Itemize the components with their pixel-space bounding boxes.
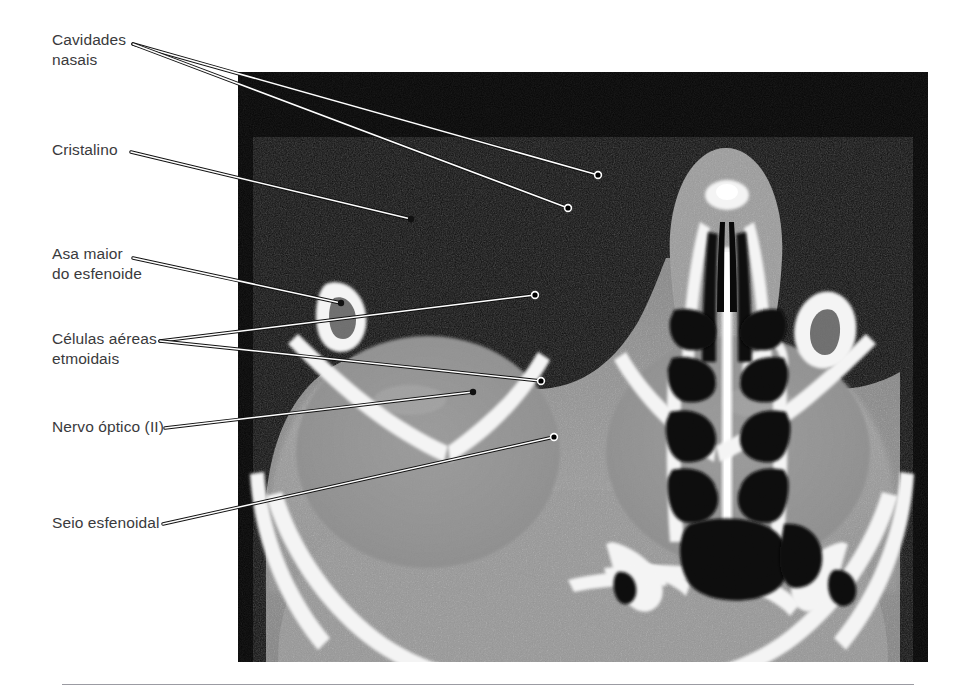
label-celulas-aereas-etmoidais[interactable]: Células aéreas etmoidais — [52, 329, 157, 369]
label-asa-maior-do-esfenoide[interactable]: Asa maior do esfenoide — [52, 244, 142, 284]
anatomy-figure: Cavidades nasais Cristalino Asa maior do… — [0, 0, 976, 693]
label-nervo-optico-ii[interactable]: Nervo óptico (II) — [52, 417, 164, 437]
ct-scan-image — [238, 72, 928, 662]
label-cavidades-nasais[interactable]: Cavidades nasais — [52, 30, 126, 70]
ct-scan-canvas — [238, 72, 928, 662]
footer-divider — [62, 684, 914, 685]
label-cristalino[interactable]: Cristalino — [52, 140, 118, 160]
label-seio-esfenoidal[interactable]: Seio esfenoidal — [52, 513, 160, 533]
